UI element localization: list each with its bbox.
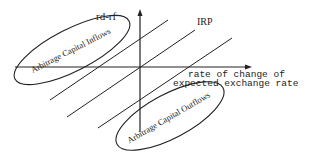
y-axis-arrow-icon [138, 9, 143, 16]
irp-diagram: rd-rf IRP rate of change of expected exc… [0, 0, 312, 153]
x-axis-label-line2: expected exchange rate [173, 78, 299, 89]
outflows-region-label: Arbitrage Capital Outflows [125, 89, 212, 145]
irp-label: IRP [197, 16, 213, 27]
y-axis-label: rd-rf [96, 10, 116, 22]
y-axis [138, 9, 143, 132]
